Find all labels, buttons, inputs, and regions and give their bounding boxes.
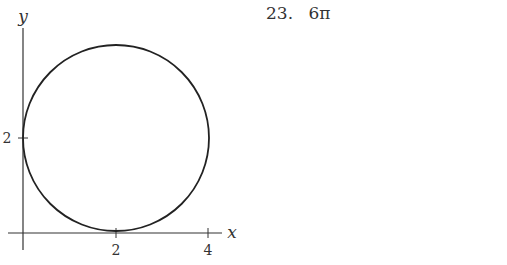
circle-plot: 2 4 2 x y (0, 0, 260, 265)
y-axis-label: y (17, 6, 28, 26)
x-axis-label: x (227, 222, 237, 242)
circle-curve (23, 45, 209, 231)
x-tick-label-2: 2 (112, 242, 121, 258)
answer-value: 6π (308, 3, 330, 23)
y-tick-label-2: 2 (3, 130, 12, 146)
answer-text: 23. 6π (266, 3, 330, 23)
problem-number: 23. (266, 3, 293, 23)
x-tick-label-4: 4 (204, 242, 213, 258)
